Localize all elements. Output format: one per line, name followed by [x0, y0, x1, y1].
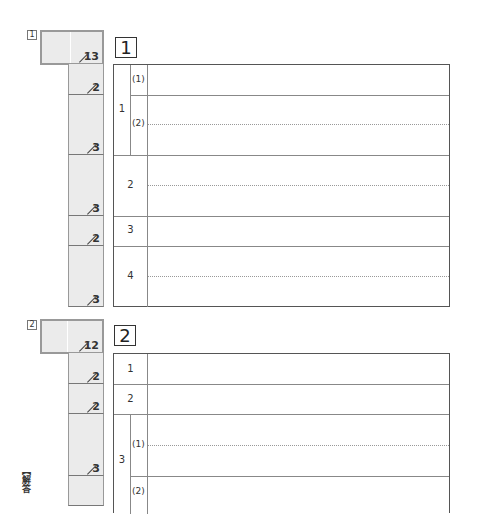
answer-field-1-1-2[interactable] [148, 96, 449, 155]
score-box-divider [67, 321, 68, 352]
question-number: 4 [114, 270, 147, 281]
question-number: 3 [114, 224, 147, 235]
answer-field-2-3-2[interactable] [148, 477, 449, 514]
score-cell-1-2[interactable]: 3 [68, 155, 104, 216]
section-2-answer-table: 1 2 3 (1) (2) [113, 353, 450, 513]
score-cell-2-1[interactable]: 2 [68, 353, 104, 384]
section-2-index-label: 2 [29, 320, 34, 329]
section-2-heading: 2 [114, 325, 136, 346]
score-cell-1-1-1[interactable]: 2 [68, 64, 104, 95]
answer-field-1-1-1[interactable] [148, 65, 449, 95]
answer-field-2-3-1[interactable] [148, 415, 449, 476]
section-2-index-box: 2 [27, 320, 37, 330]
section-1-index-label: 1 [29, 30, 34, 39]
section-1-total-points: 13 [84, 51, 99, 62]
question-number: 2 [114, 179, 147, 190]
question-number: 1 [114, 363, 147, 374]
section-1-total-score-box[interactable]: 13 [40, 30, 104, 65]
answer-field-2-1[interactable] [148, 354, 449, 384]
section-2-total-points: 12 [84, 340, 99, 351]
answer-field-1-4[interactable] [148, 247, 449, 307]
question-number: 3 [114, 454, 130, 465]
section-1-index-box: 1 [27, 30, 37, 40]
score-cell-1-1-2[interactable]: 3 [68, 95, 104, 155]
question-number: 1 [114, 103, 130, 114]
answer-field-1-3[interactable] [148, 217, 449, 246]
sub-question-label: (2) [132, 486, 145, 496]
section-1-heading: 1 [115, 37, 137, 58]
score-cell-1-4[interactable]: 3 [68, 246, 104, 307]
section-1-answer-table: 1 (1) (2) 2 3 4 [113, 64, 450, 307]
sub-question-label: (2) [132, 118, 145, 128]
sub-question-label: (1) [132, 74, 145, 84]
score-cell-2-3-2[interactable] [68, 476, 104, 506]
score-box-divider [70, 32, 71, 63]
section-2-total-score-box[interactable]: 12 [40, 319, 104, 354]
side-note: 【解答 [20, 466, 33, 493]
answer-field-2-2[interactable] [148, 385, 449, 414]
score-cell-1-3[interactable]: 2 [68, 216, 104, 246]
question-number: 2 [114, 393, 147, 404]
divider [130, 414, 131, 514]
divider [130, 65, 131, 155]
answer-field-1-2[interactable] [148, 156, 449, 216]
sub-question-label: (1) [132, 439, 145, 449]
score-cell-2-3-1[interactable]: 3 [68, 414, 104, 476]
score-cell-2-2[interactable]: 2 [68, 384, 104, 414]
